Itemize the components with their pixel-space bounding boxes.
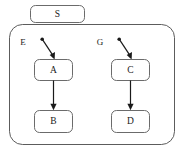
node-a-label: A	[50, 65, 57, 75]
port-label-g: G	[97, 37, 104, 47]
diagram-svg: S E A B G C	[0, 0, 189, 153]
node-c-label: C	[127, 65, 133, 75]
node-s-label: S	[55, 9, 60, 19]
port-label-e: E	[20, 37, 26, 47]
diagram-canvas: S E A B G C	[0, 0, 189, 153]
node-b-label: B	[50, 116, 56, 126]
node-a[interactable]: A	[35, 60, 73, 81]
node-d-label: D	[127, 116, 134, 126]
node-d[interactable]: D	[112, 111, 150, 133]
node-b[interactable]: B	[35, 111, 73, 133]
node-s[interactable]: S	[31, 6, 85, 23]
node-c[interactable]: C	[112, 60, 150, 81]
